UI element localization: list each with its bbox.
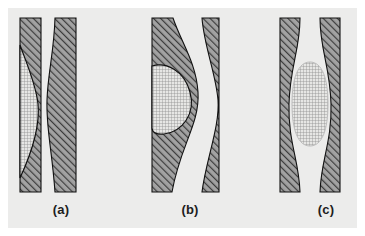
panel-a-right-band <box>47 18 76 192</box>
panel-b-caption: (b) <box>145 203 235 216</box>
panel-a <box>20 18 76 192</box>
panel-b-right-band <box>202 18 219 192</box>
figure-illustration <box>0 0 365 236</box>
figure-root: (a) (b) (c) <box>0 0 365 236</box>
panel-c-oval-inclusion <box>292 62 328 146</box>
panel-c-caption: (c) <box>281 203 365 216</box>
panel-c <box>280 18 340 192</box>
panel-a-caption: (a) <box>16 203 106 216</box>
panel-b <box>152 18 219 192</box>
